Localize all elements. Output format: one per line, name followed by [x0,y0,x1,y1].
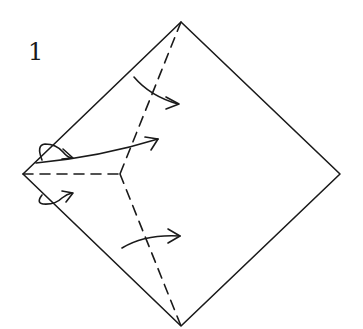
lower-left-flap-arrow-icon [39,191,73,204]
center-fold-arrow-icon [36,137,158,163]
paper-square-outline [23,22,340,326]
upper-fold-arrow-icon [134,77,179,109]
origami-diagram [0,0,363,329]
lower-diagonal-fold-line [120,174,181,326]
upper-left-flap-arrow-icon [40,144,73,160]
lower-fold-arrow-icon [122,229,180,248]
upper-diagonal-fold-line [120,22,181,174]
